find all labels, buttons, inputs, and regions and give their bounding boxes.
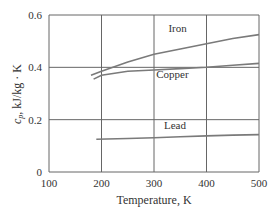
- chart-canvas: 10020030040050000.20.40.6 IronCopperLead…: [0, 0, 280, 215]
- y-tick-label: 0.6: [28, 9, 42, 21]
- y-tick-label: 0.4: [28, 61, 42, 73]
- series-line-lead: [96, 135, 259, 140]
- x-tick-label: 400: [198, 177, 215, 189]
- x-tick-label: 300: [146, 177, 163, 189]
- y-axis-label: cp, kJ/kg · K: [10, 64, 25, 124]
- y-tick-label: 0: [37, 166, 43, 178]
- x-tick-label: 100: [41, 177, 58, 189]
- x-axis-label: Temperature, K: [116, 193, 191, 207]
- x-tick-label: 500: [251, 177, 268, 189]
- specific-heat-chart: 10020030040050000.20.40.6 IronCopperLead…: [0, 0, 280, 215]
- series-label-iron: Iron: [168, 22, 187, 34]
- x-tick-label: 200: [93, 177, 110, 189]
- series-labels: IronCopperLead: [156, 22, 189, 131]
- grid-lines: [49, 15, 259, 172]
- series-label-copper: Copper: [156, 68, 189, 80]
- tick-labels: 10020030040050000.20.40.6: [28, 9, 268, 189]
- y-tick-label: 0.2: [28, 114, 42, 126]
- series-label-lead: Lead: [164, 119, 186, 131]
